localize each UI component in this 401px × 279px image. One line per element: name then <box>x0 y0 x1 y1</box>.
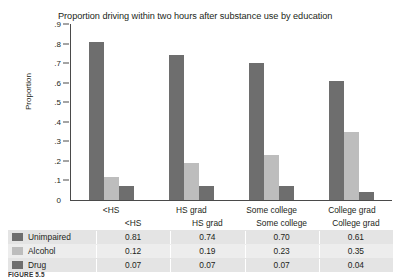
figure-container: Proportion driving within two hours afte… <box>0 0 401 279</box>
bar-group <box>71 24 151 200</box>
x-tick-label: HS grad <box>151 205 231 215</box>
bar-alcohol <box>184 163 199 200</box>
y-tick-mark <box>63 121 69 122</box>
table-cell: 0.70 <box>245 232 319 242</box>
table-cell: 0.07 <box>96 260 170 270</box>
y-tick-label: .8 <box>54 39 61 48</box>
legend-swatch-icon <box>12 261 23 269</box>
bar-groups <box>71 24 392 200</box>
table-row: Unimpaired0.810.740.700.61 <box>8 230 393 244</box>
y-tick-label: .1 <box>54 176 61 185</box>
chart-title: Proportion driving within two hours afte… <box>58 11 396 22</box>
y-axis-label: Proportion <box>24 73 33 110</box>
bar-drug <box>359 192 374 200</box>
table-cell: 0.81 <box>96 232 170 242</box>
y-tick-label: .2 <box>54 156 61 165</box>
table-row: Alcohol0.120.190.230.35 <box>8 244 393 258</box>
table-cell: 0.74 <box>170 232 244 242</box>
table-column-header: HS grad <box>170 218 244 228</box>
figure-caption: FIGURE 5.5 <box>8 270 398 279</box>
table-cell: 0.07 <box>170 260 244 270</box>
x-tick-label: Some college <box>232 205 312 215</box>
table-cell: 0.04 <box>319 260 393 270</box>
y-tick-mark <box>63 43 69 44</box>
legend-entry: Alcohol <box>8 246 96 256</box>
plot-area: Proportion 0.1.2.3.4.5.6.7.8.9 <box>0 24 401 204</box>
x-tick-label: College grad <box>312 205 392 215</box>
y-tick-mark <box>63 102 69 103</box>
x-axis-tick-labels: <HSHS gradSome collegeCollege grad <box>71 205 392 215</box>
bar-drug <box>199 186 214 200</box>
table-cell: 0.35 <box>319 246 393 256</box>
y-axis: 0.1.2.3.4.5.6.7.8.9 <box>42 24 70 204</box>
table-cell: 0.12 <box>96 246 170 256</box>
series-label: Unimpaired <box>28 232 71 242</box>
y-tick-label: .3 <box>54 137 61 146</box>
legend-swatch-icon <box>12 233 23 241</box>
table-cell: 0.19 <box>170 246 244 256</box>
data-table: <HSHS gradSome collegeCollege gradUnimpa… <box>8 216 393 272</box>
bar-group <box>312 24 392 200</box>
table-column-header: College grad <box>319 218 393 228</box>
bar-alcohol <box>264 155 279 200</box>
bar-unimpaired <box>329 81 344 200</box>
table-cell: 0.61 <box>319 232 393 242</box>
y-tick-mark <box>63 24 69 25</box>
table-header-row: <HSHS gradSome collegeCollege grad <box>8 216 393 230</box>
series-label: Drug <box>28 260 46 270</box>
y-tick-mark <box>63 141 69 142</box>
table-cell: 0.07 <box>245 260 319 270</box>
bar-alcohol <box>344 132 359 200</box>
legend-entry: Drug <box>8 260 96 270</box>
x-tick-label: <HS <box>71 205 151 215</box>
table-column-header: <HS <box>96 218 170 228</box>
y-tick-label: .5 <box>54 98 61 107</box>
y-tick-label: .7 <box>54 59 61 68</box>
bar-unimpaired <box>169 55 184 200</box>
table-cell: 0.23 <box>245 246 319 256</box>
bar-unimpaired <box>89 42 104 200</box>
legend-entry: Unimpaired <box>8 232 96 242</box>
y-tick-mark <box>63 180 69 181</box>
y-tick-label: .6 <box>54 78 61 87</box>
y-tick-mark <box>63 82 69 83</box>
y-tick-label: .9 <box>54 20 61 29</box>
legend-swatch-icon <box>12 247 23 255</box>
y-tick-label: .4 <box>54 117 61 126</box>
x-axis-line <box>70 200 392 201</box>
figure-number: FIGURE 5.5 <box>8 271 45 278</box>
series-label: Alcohol <box>28 246 55 256</box>
y-tick-label: 0 <box>57 196 61 205</box>
bar-drug <box>119 186 134 200</box>
y-tick-mark <box>63 63 69 64</box>
bar-unimpaired <box>249 63 264 200</box>
y-tick-mark <box>63 160 69 161</box>
bar-drug <box>279 186 294 200</box>
bar-group <box>232 24 312 200</box>
bar-group <box>151 24 231 200</box>
table-column-header: Some college <box>245 218 319 228</box>
bar-alcohol <box>104 177 119 200</box>
